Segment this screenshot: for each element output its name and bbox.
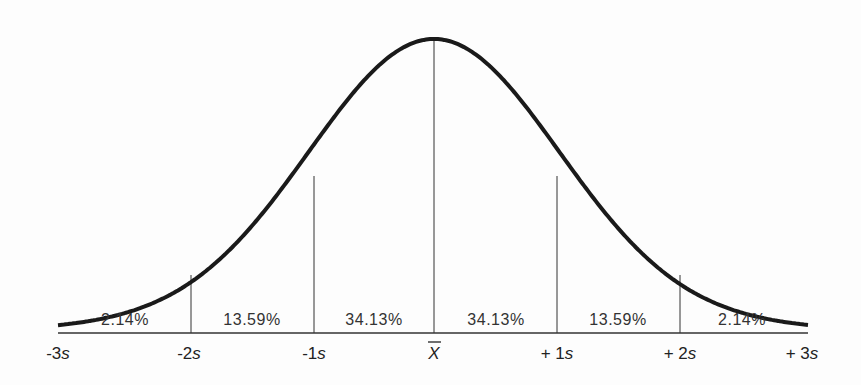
- tick-label-plus-1s: + 1s: [541, 344, 574, 363]
- band-label: 34.13%: [345, 311, 402, 328]
- bell-curve: [58, 39, 808, 325]
- normal-distribution-chart: 2.14% 13.59% 34.13% 34.13% 13.59% 2.14% …: [0, 0, 861, 385]
- tick-label-minus-2s: -2s: [177, 344, 201, 363]
- tick-label-minus-1s: -1s: [302, 344, 326, 363]
- svg-text:X: X: [427, 344, 440, 363]
- band-label: 13.59%: [223, 311, 280, 328]
- band-label: 34.13%: [467, 311, 524, 328]
- tick-label-minus-3s: -3s: [46, 344, 70, 363]
- tick-label-plus-3s: + 3s: [786, 344, 819, 363]
- band-label: 13.59%: [589, 311, 646, 328]
- band-label: 2.14%: [101, 311, 149, 328]
- tick-label-plus-2s: + 2s: [664, 344, 697, 363]
- tick-label-mean: X: [427, 342, 441, 363]
- band-label: 2.14%: [718, 311, 766, 328]
- chart-svg: 2.14% 13.59% 34.13% 34.13% 13.59% 2.14% …: [0, 0, 861, 385]
